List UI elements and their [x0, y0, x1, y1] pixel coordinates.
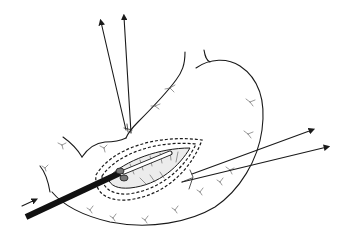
instrument: [26, 153, 170, 217]
traction-arrows-top: [101, 17, 132, 133]
illustration: [0, 0, 341, 239]
vessel-branches: [42, 85, 255, 223]
instrument-tip: [116, 168, 124, 174]
arrow-right-upper-icon: [192, 130, 312, 174]
arrow-right-lower-icon: [182, 147, 327, 182]
stomach-outline: [40, 50, 263, 225]
traction-arrows-right: [182, 130, 327, 189]
incision: [96, 139, 202, 200]
arrow-up-left-icon: [101, 22, 126, 130]
stomach-diagram: [0, 0, 341, 239]
insertion-arrow-icon: [22, 200, 35, 206]
arrow-up-icon: [124, 17, 131, 133]
